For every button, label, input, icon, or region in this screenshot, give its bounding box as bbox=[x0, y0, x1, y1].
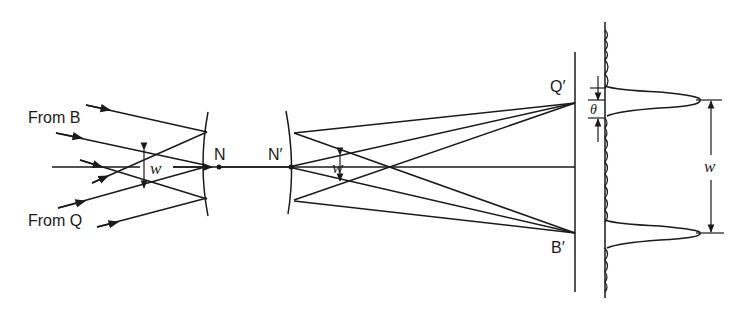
label-n: N bbox=[214, 146, 226, 163]
w-dimension-right: w bbox=[696, 100, 724, 233]
theta-dimension: θ bbox=[588, 76, 605, 142]
peak-q-prime bbox=[605, 86, 700, 116]
label-w-right: w bbox=[704, 157, 716, 176]
label-q-prime: Q′ bbox=[550, 78, 565, 95]
label-n-prime: N′ bbox=[268, 146, 283, 163]
label-from-q: From Q bbox=[28, 212, 82, 229]
peak-b-prime bbox=[605, 220, 700, 248]
label-from-b: From B bbox=[28, 109, 80, 126]
rays-to-b-prime bbox=[293, 133, 575, 233]
label-w-middle: w bbox=[332, 158, 344, 177]
label-b-prime: B′ bbox=[551, 239, 565, 256]
label-theta: θ bbox=[590, 102, 597, 117]
lens-surface-n-prime bbox=[286, 111, 292, 214]
rays-to-q-prime bbox=[293, 103, 575, 200]
lens-surface-n bbox=[203, 112, 208, 216]
label-w-left: w bbox=[150, 159, 162, 178]
optics-diagram: w N N′ w Q′ B′ bbox=[0, 0, 740, 313]
node-n-prime bbox=[289, 165, 294, 170]
